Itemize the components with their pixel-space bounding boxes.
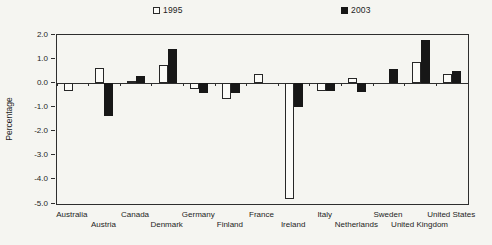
x-tick (341, 83, 342, 86)
bar-2003-sweden (389, 69, 398, 83)
bar-2003-united-states (452, 71, 461, 83)
x-tick (215, 83, 216, 86)
y-tick-label: 2.0 (14, 30, 48, 39)
legend-swatch-2003-icon (341, 7, 348, 14)
y-tick (51, 106, 55, 107)
x-tick (436, 83, 437, 86)
x-tick (278, 83, 279, 86)
legend-item-1995: 1995 (153, 5, 183, 15)
bar-1995-united-states (443, 74, 452, 84)
bar-1995-france (254, 74, 263, 84)
bar-1995-finland (222, 83, 231, 99)
x-tick-label-netherlands: Netherlands (335, 220, 378, 229)
y-tick-label: -5.0 (14, 199, 48, 208)
bar-2003-austria (104, 83, 113, 116)
x-tick (57, 83, 58, 86)
x-tick-label-canada: Canada (121, 210, 149, 219)
x-tick-label-australia: Australia (56, 210, 87, 219)
bar-2003-italy (326, 83, 335, 90)
x-tick (88, 83, 89, 86)
bar-1995-germany (190, 83, 199, 89)
x-tick-label-united-states: United States (427, 210, 475, 219)
x-tick-label-germany: Germany (182, 210, 215, 219)
bar-1995-united-kingdom (412, 62, 421, 84)
bar-1995-denmark (159, 65, 168, 83)
legend-label-1995: 1995 (163, 5, 183, 15)
x-tick (120, 83, 121, 86)
y-axis-title: Percentage (4, 64, 14, 174)
y-tick (51, 82, 55, 83)
bar-2003-germany (199, 83, 208, 93)
x-tick (404, 83, 405, 86)
y-tick (51, 154, 55, 155)
y-tick-label: -2.0 (14, 126, 48, 135)
x-tick (468, 83, 469, 86)
bar-2003-united-kingdom (421, 40, 430, 83)
x-tick-label-ireland: Ireland (281, 220, 305, 229)
bar-2003-denmark (168, 49, 177, 83)
bar-1995-australia (64, 83, 73, 90)
y-tick (51, 58, 55, 59)
x-tick-label-united-kingdom: United Kingdom (391, 220, 448, 229)
y-tick-label: 1.0 (14, 54, 48, 63)
x-tick (246, 83, 247, 86)
bar-2003-ireland (294, 83, 303, 107)
y-tick (51, 203, 55, 204)
legend-label-2003: 2003 (351, 5, 371, 15)
bar-1995-canada (127, 81, 136, 83)
zero-axis-line (57, 83, 468, 84)
x-tick (151, 83, 152, 86)
bar-2003-finland (231, 83, 240, 93)
legend-item-2003: 2003 (341, 5, 371, 15)
x-tick-label-italy: Italy (317, 210, 332, 219)
y-tick-label: -1.0 (14, 102, 48, 111)
y-tick-label: -3.0 (14, 150, 48, 159)
bar-2003-netherlands (357, 83, 366, 91)
plot-area (56, 34, 469, 205)
legend-swatch-1995-icon (153, 7, 160, 14)
bar-1995-italy (317, 83, 326, 90)
bar-1995-austria (95, 68, 104, 84)
chart: 1995 2003 Percentage 2.01.00.0-1.0-2.0-3… (0, 0, 492, 245)
y-tick (51, 34, 55, 35)
y-tick (51, 178, 55, 179)
y-tick-label: -4.0 (14, 174, 48, 183)
x-tick-label-sweden: Sweden (373, 210, 402, 219)
x-tick (183, 83, 184, 86)
x-tick (309, 83, 310, 86)
y-tick-label: 0.0 (14, 78, 48, 87)
x-tick-label-austria: Austria (91, 220, 116, 229)
x-tick-label-france: France (249, 210, 274, 219)
bar-1995-ireland (285, 83, 294, 199)
x-tick (373, 83, 374, 86)
bar-2003-canada (136, 76, 145, 83)
x-tick-label-finland: Finland (217, 220, 243, 229)
y-tick (51, 130, 55, 131)
x-tick-label-denmark: Denmark (150, 220, 182, 229)
bar-1995-netherlands (348, 78, 357, 83)
